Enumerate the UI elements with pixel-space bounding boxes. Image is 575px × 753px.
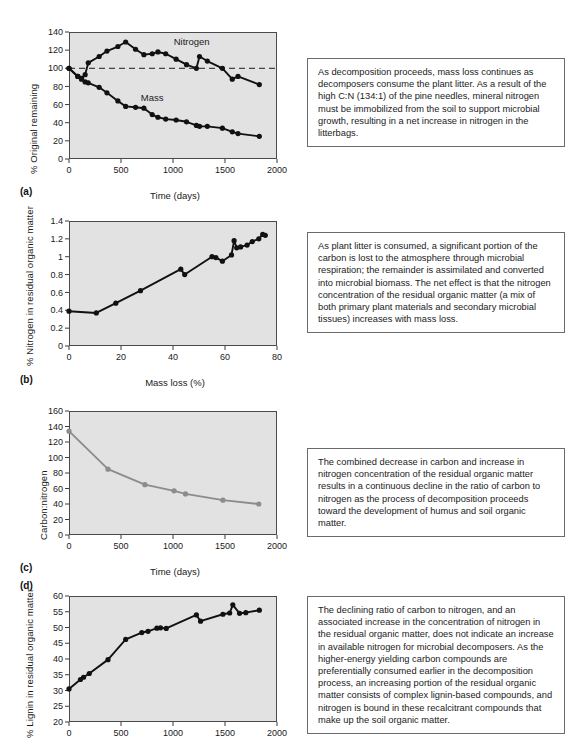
- svg-text:2000: 2000: [267, 165, 287, 175]
- panel-c: Carbon:nitrogen 020406080100120140160050…: [0, 398, 290, 583]
- svg-text:1000: 1000: [163, 728, 183, 738]
- svg-text:500: 500: [113, 165, 128, 175]
- panel-d-svg: 2025303540455055600500100015002000: [0, 588, 290, 753]
- panel-b-x-axis-label: Mass loss (%): [110, 377, 240, 388]
- svg-text:40: 40: [53, 499, 63, 509]
- panel-b-description: As plant litter is consumed, a significa…: [307, 232, 565, 333]
- svg-text:20: 20: [53, 136, 63, 146]
- svg-text:80: 80: [272, 352, 282, 362]
- svg-text:30: 30: [53, 686, 63, 696]
- svg-text:20: 20: [116, 352, 126, 362]
- svg-text:120: 120: [48, 437, 63, 447]
- svg-text:0.4: 0.4: [50, 305, 63, 315]
- svg-text:Nitrogen: Nitrogen: [174, 36, 210, 47]
- panel-d: % Lignin in residual organic matter 2025…: [0, 588, 290, 753]
- panel-a: % Original remaining 0204060801001201400…: [0, 14, 290, 204]
- panel-c-letter: (c): [20, 562, 32, 573]
- svg-text:0.8: 0.8: [50, 270, 63, 280]
- svg-text:0: 0: [58, 154, 63, 164]
- svg-text:500: 500: [113, 541, 128, 551]
- svg-text:1500: 1500: [215, 541, 235, 551]
- svg-text:0: 0: [58, 530, 63, 540]
- svg-text:Mass: Mass: [141, 92, 164, 103]
- svg-text:60: 60: [53, 591, 63, 601]
- svg-text:2000: 2000: [267, 541, 287, 551]
- svg-text:1000: 1000: [163, 165, 183, 175]
- svg-text:60: 60: [53, 484, 63, 494]
- svg-text:0.2: 0.2: [50, 323, 63, 333]
- panel-d-plot: 2025303540455055600500100015002000: [0, 588, 290, 753]
- svg-text:80: 80: [53, 468, 63, 478]
- svg-text:40: 40: [168, 352, 178, 362]
- svg-text:100: 100: [48, 453, 63, 463]
- svg-text:0: 0: [66, 352, 71, 362]
- svg-text:45: 45: [53, 638, 63, 648]
- svg-text:20: 20: [53, 515, 63, 525]
- svg-text:1: 1: [58, 252, 63, 262]
- panel-a-x-axis-label: Time (days): [110, 190, 240, 201]
- svg-text:120: 120: [48, 45, 63, 55]
- svg-text:25: 25: [53, 701, 63, 711]
- svg-text:1500: 1500: [215, 728, 235, 738]
- panel-b-plot: 00.20.40.60.811.21.4020406080: [0, 208, 290, 393]
- svg-text:500: 500: [113, 728, 128, 738]
- svg-text:0.6: 0.6: [50, 288, 63, 298]
- svg-text:0: 0: [66, 728, 71, 738]
- svg-text:2000: 2000: [267, 728, 287, 738]
- svg-text:60: 60: [53, 100, 63, 110]
- panel-d-letter-visible: (d): [20, 580, 33, 591]
- svg-text:140: 140: [48, 422, 63, 432]
- svg-text:20: 20: [53, 717, 63, 727]
- panel-a-plot: 0204060801001201400500100015002000 Nitro…: [0, 14, 290, 204]
- panel-c-description: The combined decrease in carbon and incr…: [307, 448, 565, 537]
- svg-text:40: 40: [53, 654, 63, 664]
- svg-text:140: 140: [48, 27, 63, 37]
- svg-text:0: 0: [58, 341, 63, 351]
- svg-text:60: 60: [220, 352, 230, 362]
- svg-text:0: 0: [66, 165, 71, 175]
- svg-text:160: 160: [48, 406, 63, 416]
- panel-c-plot: 0204060801001201401600500100015002000: [0, 398, 290, 583]
- svg-text:55: 55: [53, 607, 63, 617]
- svg-text:40: 40: [53, 118, 63, 128]
- panel-c-x-axis-label: Time (days): [110, 566, 240, 577]
- svg-text:50: 50: [53, 623, 63, 633]
- svg-text:0: 0: [66, 541, 71, 551]
- svg-text:80: 80: [53, 82, 63, 92]
- panel-a-svg: 0204060801001201400500100015002000 Nitro…: [0, 14, 290, 204]
- svg-text:1500: 1500: [215, 165, 235, 175]
- panel-a-letter: (a): [20, 186, 32, 197]
- panel-b-svg: 00.20.40.60.811.21.4020406080: [0, 208, 290, 393]
- panel-a-description: As decomposition proceeds, mass loss con…: [307, 58, 565, 147]
- svg-text:1.4: 1.4: [50, 216, 63, 226]
- svg-text:35: 35: [53, 670, 63, 680]
- panel-b-letter: (b): [20, 374, 33, 385]
- panel-b: % Nitrogen in residual organic matter 00…: [0, 208, 290, 393]
- panel-d-description: The declining ratio of carbon to nitroge…: [307, 596, 565, 734]
- svg-text:1.2: 1.2: [50, 234, 63, 244]
- figure-page: % Original remaining 0204060801001201400…: [0, 0, 575, 753]
- svg-text:100: 100: [48, 63, 63, 73]
- panel-c-svg: 0204060801001201401600500100015002000: [0, 398, 290, 583]
- svg-text:1000: 1000: [163, 541, 183, 551]
